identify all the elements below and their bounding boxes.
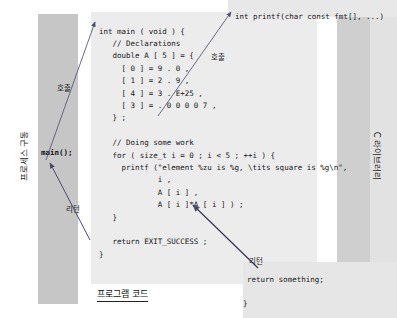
printf-body-panel xyxy=(243,262,397,318)
process-execution-label: 프로세스 구동 xyxy=(17,116,29,196)
main-call-text: main(); xyxy=(41,148,73,157)
printf-return-text: return something; xyxy=(247,274,324,286)
annotation-return-left: 리턴 xyxy=(66,203,80,214)
program-code-caption: 프로그램 코드 xyxy=(97,289,148,302)
printf-closing-brace: } xyxy=(243,298,248,310)
printf-signature-text: int printf(char const fmt[], ...) xyxy=(235,11,384,23)
annotation-return-right: 리턴 xyxy=(249,255,263,266)
process-execution-band xyxy=(38,14,78,304)
c-library-label: C 라이브러리 xyxy=(372,116,384,196)
annotation-call-right: 호출 xyxy=(211,51,225,62)
diagram-canvas: int main ( void ) { // Declarations doub… xyxy=(0,0,397,318)
annotation-call-left: 호출 xyxy=(57,82,71,93)
